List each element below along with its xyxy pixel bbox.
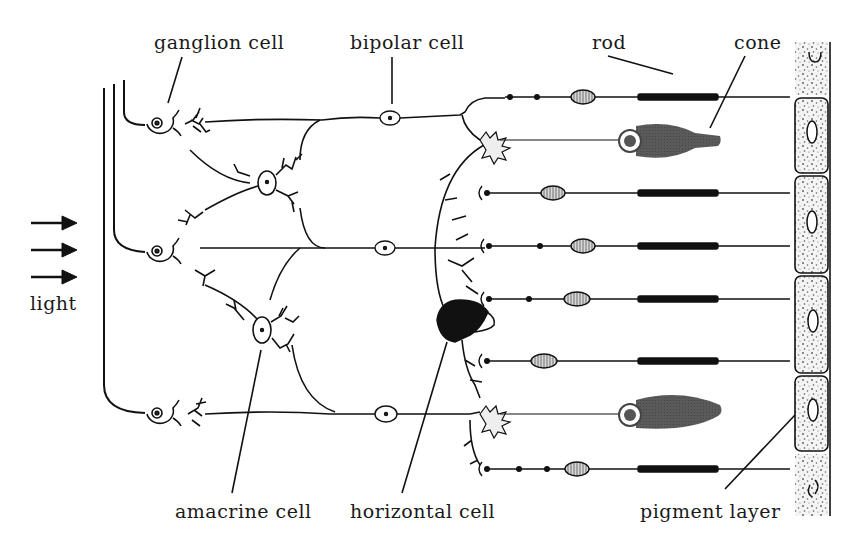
- cones: [500, 124, 722, 429]
- pigment-layer: [795, 42, 830, 516]
- cone: [500, 124, 721, 158]
- arrow-icon: [31, 270, 77, 284]
- synaptic-pathways: [190, 98, 505, 414]
- label-pigment-layer: pigment layer: [640, 500, 781, 522]
- retina-diagram: [0, 0, 867, 550]
- label-rod: rod: [592, 31, 626, 53]
- cone: [500, 395, 722, 429]
- rod: [481, 292, 790, 306]
- rod: [505, 90, 790, 104]
- bipolar-cell: [380, 111, 400, 125]
- label-light: light: [30, 292, 77, 314]
- bipolar-cell: [375, 241, 395, 255]
- ganglion-cells: [147, 108, 210, 426]
- nerve-fibers: [104, 80, 145, 413]
- rod: [479, 354, 790, 368]
- cone-synapses: [480, 132, 510, 438]
- arrow-icon: [31, 216, 77, 230]
- label-horizontal-cell: horizontal cell: [350, 500, 495, 522]
- label-ganglion-cell: ganglion cell: [154, 31, 284, 53]
- ganglion-cell: [147, 398, 206, 426]
- amacrine-cell: [178, 154, 302, 225]
- amacrine-cells: [178, 154, 302, 352]
- amacrine-cell: [195, 270, 299, 352]
- rod: [481, 239, 790, 253]
- arrow-icon: [31, 243, 77, 257]
- leader-lines: [168, 56, 795, 493]
- label-cone: cone: [734, 31, 782, 53]
- rod: [479, 186, 790, 200]
- bipolar-cells: [375, 111, 400, 422]
- label-amacrine-cell: amacrine cell: [175, 500, 312, 522]
- ganglion-cell: [147, 108, 210, 136]
- label-bipolar-cell: bipolar cell: [350, 31, 464, 53]
- bipolar-cell: [375, 406, 397, 422]
- ganglion-cell: [147, 238, 181, 264]
- light-arrows: [31, 216, 77, 284]
